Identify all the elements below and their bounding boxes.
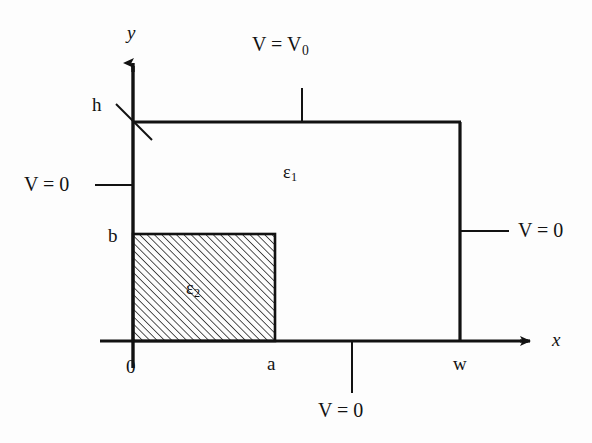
permittivity-1-label: ε1 <box>283 163 297 184</box>
slab-height-dimension-label: b <box>108 226 118 245</box>
y-axis-label: y <box>127 23 135 42</box>
boundary-condition-top-text: V = V <box>252 33 301 55</box>
diagram-vector-layer <box>0 0 592 443</box>
x-axis-label: x <box>552 330 560 349</box>
dielectric-2-slab <box>133 234 275 341</box>
slab-width-dimension-label: a <box>267 354 275 373</box>
boundary-condition-right: V = 0 <box>518 220 563 240</box>
permittivity-1-subscript: 1 <box>291 170 298 184</box>
boundary-condition-left: V = 0 <box>24 174 69 194</box>
permittivity-1-symbol: ε <box>283 162 291 182</box>
width-dimension-label: w <box>453 354 467 373</box>
permittivity-2-label: ε2 <box>186 279 200 300</box>
diagram-canvas: y x 0 h b a w ε1 ε2 V = V0 V = 0 V = 0 V… <box>0 0 592 443</box>
height-dimension-label: h <box>92 95 102 114</box>
boundary-condition-top: V = V0 <box>252 34 309 57</box>
boundary-condition-top-subscript: 0 <box>301 43 308 58</box>
origin-label: 0 <box>126 357 136 376</box>
permittivity-2-subscript: 2 <box>194 286 201 300</box>
boundary-condition-bottom: V = 0 <box>318 400 363 420</box>
permittivity-2-symbol: ε <box>186 278 194 298</box>
